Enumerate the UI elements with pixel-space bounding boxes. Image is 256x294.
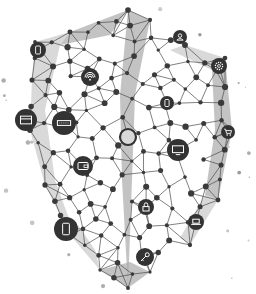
network-node	[125, 71, 129, 75]
network-edge	[149, 107, 155, 127]
network-node	[58, 182, 63, 187]
network-edge	[69, 94, 85, 109]
network-node	[157, 48, 160, 51]
network-node	[156, 250, 161, 255]
network-edge	[84, 175, 87, 190]
network-node	[115, 142, 121, 148]
network-edge	[138, 133, 143, 151]
network-edge	[70, 49, 84, 61]
network-node	[83, 244, 86, 247]
network-node	[186, 60, 189, 63]
network-edge	[172, 209, 188, 223]
network-node	[42, 164, 47, 169]
network-edge	[204, 123, 215, 137]
network-edge	[86, 110, 103, 127]
network-node	[141, 82, 145, 86]
network-node	[219, 162, 224, 167]
network-edge	[150, 20, 151, 38]
network-edge	[200, 85, 208, 102]
network-edge	[84, 49, 99, 59]
network-edge	[144, 171, 161, 173]
wallet-icon	[73, 156, 93, 176]
network-edge	[151, 38, 171, 40]
network-node	[69, 74, 73, 78]
dust-dot	[1, 78, 5, 82]
network-node	[165, 223, 169, 227]
mobile-phone-icon	[54, 217, 78, 241]
network-node	[57, 90, 62, 95]
network-node	[83, 188, 86, 191]
monitor-icon	[167, 139, 189, 161]
keyboard-icon	[52, 111, 76, 135]
network-node	[216, 198, 221, 203]
network-node	[111, 275, 116, 280]
network-node	[58, 213, 63, 218]
dust-dot	[198, 33, 202, 37]
network-edge	[101, 235, 118, 247]
key-icon	[136, 248, 154, 266]
network-edge	[158, 50, 167, 66]
network-node	[219, 118, 223, 122]
network-node	[143, 184, 149, 190]
dust-dot	[228, 146, 230, 148]
network-node	[184, 87, 188, 91]
network-node	[130, 159, 133, 162]
network-node	[148, 270, 151, 273]
network-node	[103, 205, 107, 209]
network-node	[165, 63, 170, 68]
network-node	[97, 57, 102, 62]
network-edge	[131, 220, 140, 238]
network-node	[167, 138, 172, 143]
network-node	[198, 204, 203, 209]
network-node	[222, 84, 228, 90]
network-edge	[60, 167, 71, 184]
network-edge	[99, 255, 118, 262]
network-node	[99, 233, 103, 237]
network-node	[28, 104, 34, 110]
network-node	[85, 109, 88, 112]
network-edge	[179, 89, 185, 103]
network-edge	[157, 198, 173, 209]
network-node	[97, 21, 101, 25]
network-node	[108, 221, 113, 226]
network-node	[158, 86, 163, 91]
network-node	[93, 216, 99, 222]
network-node	[203, 184, 209, 190]
network-node	[100, 125, 105, 130]
dust-dot	[30, 220, 35, 225]
network-edge	[185, 89, 200, 102]
smartphone-icon	[30, 42, 46, 58]
network-node	[98, 180, 103, 185]
network-edge	[132, 161, 144, 172]
network-node	[113, 62, 117, 66]
network-node	[77, 210, 82, 215]
network-node	[82, 48, 85, 51]
network-node	[152, 72, 157, 77]
network-node	[146, 105, 152, 111]
network-node	[131, 272, 135, 276]
network-node	[212, 135, 217, 140]
network-edge	[99, 59, 115, 64]
network-edge	[155, 127, 169, 140]
credit-card-icon	[15, 109, 37, 131]
dust-dot	[231, 278, 232, 279]
shield-facet	[100, 262, 150, 288]
dust-dot	[26, 140, 31, 145]
network-node	[182, 124, 188, 130]
network-edge	[99, 235, 102, 255]
network-node	[198, 100, 202, 104]
network-node	[137, 235, 142, 240]
network-edge	[169, 187, 172, 209]
network-edge	[99, 78, 112, 88]
shield-facet	[120, 10, 150, 288]
network-node	[148, 18, 152, 22]
network-edge	[167, 62, 188, 66]
network-node	[64, 44, 70, 50]
network-edge	[169, 177, 185, 187]
network-node	[131, 53, 137, 59]
network-edge	[160, 80, 174, 88]
shield-facets	[30, 10, 232, 288]
lock-icon	[138, 199, 154, 215]
network-node	[172, 78, 176, 82]
network-node	[136, 131, 140, 135]
